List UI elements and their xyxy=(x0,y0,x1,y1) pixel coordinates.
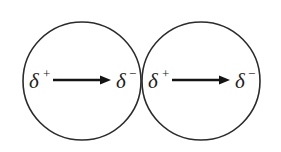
dipole-diagram: δ + δ − δ + δ − xyxy=(0,0,281,152)
left-delta-negative-sign: − xyxy=(129,66,136,81)
right-delta-positive-sign: + xyxy=(162,66,169,81)
right-delta-negative-sign: − xyxy=(248,66,255,81)
right-delta-negative-symbol: δ xyxy=(235,69,246,93)
right-delta-positive-symbol: δ xyxy=(148,69,159,93)
figure-container: δ + δ − δ + δ − Two touching circles, ea… xyxy=(0,0,281,152)
left-delta-positive-sign: + xyxy=(43,66,50,81)
left-delta-positive-symbol: δ xyxy=(29,69,40,93)
left-delta-negative-symbol: δ xyxy=(116,69,127,93)
